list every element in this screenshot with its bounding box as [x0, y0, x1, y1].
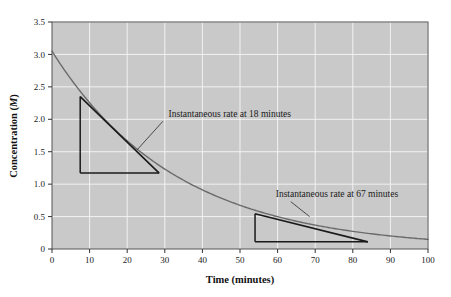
x-tick-label: 60 — [273, 255, 283, 265]
annotation-label-tangent-67: Instantaneous rate at 67 minutes — [276, 189, 399, 199]
x-tick-label: 70 — [311, 255, 321, 265]
y-tick-label: 1.5 — [34, 147, 46, 157]
x-tick-label: 80 — [348, 255, 358, 265]
x-tick-label: 10 — [85, 255, 95, 265]
concentration-vs-time-chart: 0102030405060708090100 00.51.01.52.02.53… — [0, 0, 451, 297]
y-tick-label: 3.5 — [34, 17, 46, 27]
x-tick-label: 0 — [50, 255, 55, 265]
y-tick-label: 3.0 — [34, 50, 46, 60]
x-tick-label: 90 — [386, 255, 396, 265]
chart-figure: 0102030405060708090100 00.51.01.52.02.53… — [0, 0, 451, 297]
x-tick-label: 30 — [160, 255, 170, 265]
y-tick-label: 0.5 — [34, 212, 46, 222]
y-axis-title: Concentration (M) — [8, 94, 20, 178]
x-tick-label: 20 — [123, 255, 133, 265]
x-tick-label: 50 — [236, 255, 246, 265]
y-tick-label: 1.0 — [34, 179, 46, 189]
x-tick-label: 100 — [421, 255, 435, 265]
y-tick-label: 2.5 — [34, 82, 46, 92]
x-axis-title: Time (minutes) — [206, 274, 275, 286]
y-tick-label: 0 — [41, 244, 46, 254]
annotation-label-tangent-18: Instantaneous rate at 18 minutes — [169, 109, 292, 119]
y-tick-label: 2.0 — [34, 114, 46, 124]
x-tick-label: 40 — [198, 255, 208, 265]
